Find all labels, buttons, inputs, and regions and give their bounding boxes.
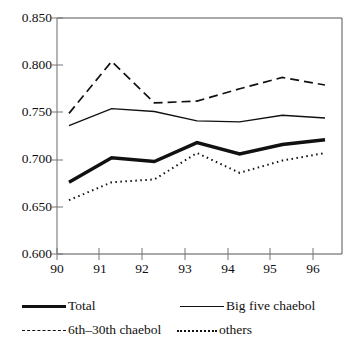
axes-frame	[57, 18, 342, 254]
legend-label: 6th–30th chaebol	[68, 322, 161, 338]
series-line-big-five-chaebol	[69, 109, 325, 126]
legend-label: others	[219, 322, 252, 338]
chart-figure: 0.850 0.800 0.750 0.700 0.650 0.600 90 9…	[0, 0, 351, 349]
legend-swatch-dashed-line-icon	[22, 325, 66, 335]
legend-label: Big five chaebol	[226, 298, 315, 314]
plot-area	[0, 0, 351, 349]
legend-item-total[interactable]: Total	[22, 298, 96, 314]
legend-label: Total	[68, 298, 96, 314]
legend-swatch-solid-line-icon	[180, 301, 224, 311]
series-line-total	[69, 140, 325, 182]
chart-legend: Total Big five chaebol 6th–30th chaebol …	[0, 298, 351, 349]
series-line-6th-30th-chaebol	[69, 61, 325, 113]
legend-item-6th-30th-chaebol[interactable]: 6th–30th chaebol	[22, 322, 161, 338]
legend-swatch-thick-line-icon	[22, 301, 66, 311]
legend-item-big-five-chaebol[interactable]: Big five chaebol	[180, 298, 315, 314]
data-series-layer	[69, 61, 325, 200]
legend-swatch-dotted-line-icon	[177, 325, 217, 335]
legend-item-others[interactable]: others	[177, 322, 252, 338]
